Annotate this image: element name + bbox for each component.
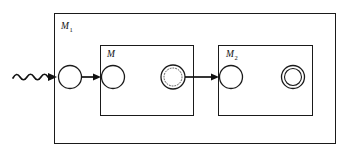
machine-diagram: M1 M M2 — [0, 0, 345, 158]
m-dotted-state-circle — [161, 65, 185, 89]
m-start-state-circle — [102, 66, 125, 89]
inner-machine-m-label: M — [106, 49, 116, 59]
diagram-canvas: M1 M M2 — [0, 0, 345, 158]
inner-machine-m2-label-subscript: 2 — [234, 54, 237, 61]
start-state-circle — [59, 66, 82, 89]
inner-machine-m-label-main: M — [106, 49, 116, 59]
wavy-input-arrow-line — [13, 74, 48, 80]
outer-machine-label-subscript: 1 — [69, 26, 72, 33]
m2-start-state-circle — [220, 66, 243, 89]
